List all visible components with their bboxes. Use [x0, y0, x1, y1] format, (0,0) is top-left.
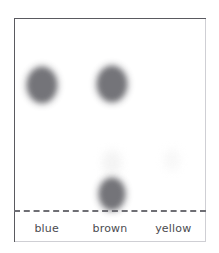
lane-label-yellow: yellow [142, 223, 205, 234]
lane-blue [15, 19, 78, 210]
origin-baseline [14, 210, 206, 212]
lane-label-row: blue brown yellow [15, 216, 205, 241]
chromatography-spot-yellow-0 [164, 149, 180, 171]
chromatography-spot-brown-0 [99, 68, 126, 101]
chromatography-figure: blue brown yellow [0, 0, 219, 253]
chromatography-spot-brown-1 [102, 150, 122, 176]
chromatography-spot-blue-0 [29, 69, 56, 102]
lane-label-brown: brown [78, 223, 141, 234]
lane-label-blue: blue [15, 223, 78, 234]
lane-yellow [142, 19, 205, 210]
chromatography-spot-brown-2 [101, 180, 124, 209]
